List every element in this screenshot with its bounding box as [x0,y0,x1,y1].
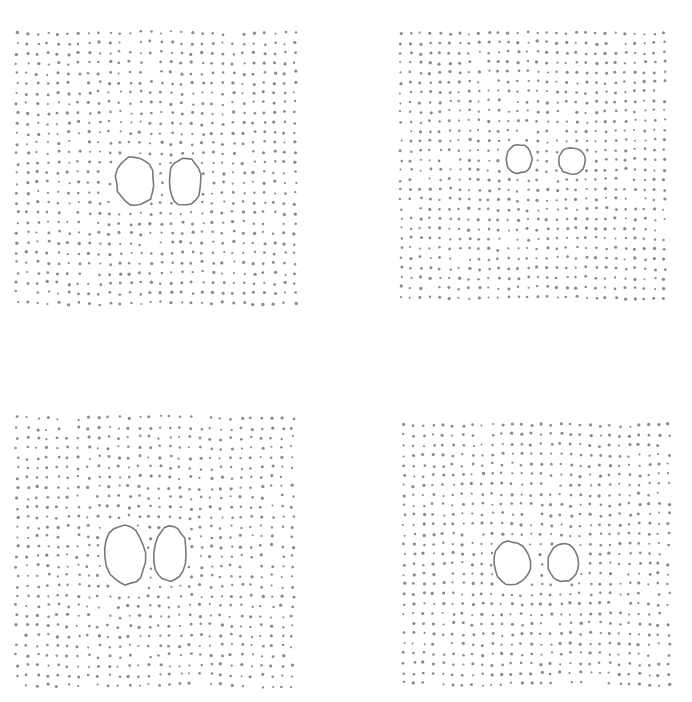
lattice-dot [557,296,559,298]
lattice-dot [570,584,573,587]
lattice-dot [210,544,213,547]
lattice-dot [97,222,99,224]
lattice-dot [181,152,184,155]
lattice-dot [490,664,493,667]
lattice-dot [477,178,480,181]
lattice-dot [546,246,549,249]
lattice-dot [180,101,183,104]
lattice-dot [458,228,460,230]
lattice-dot [149,615,152,618]
lattice-dot [457,297,459,299]
lattice-dot [57,623,60,626]
lattice-dot [438,237,441,240]
lattice-dot [558,442,561,445]
lattice-dot [619,524,622,527]
lattice-dot [492,511,494,513]
lattice-dot [557,256,559,258]
lattice-dot [478,70,481,73]
lattice-dot [566,71,569,74]
lattice-dot [130,242,132,244]
lattice-dot [66,221,68,223]
lattice-dot [545,171,548,174]
lattice-dot [293,282,295,284]
lattice-dot [97,665,100,668]
lattice-dot [210,302,213,305]
lattice-dot [149,446,152,449]
lattice-dot [45,42,48,45]
lattice-dot [99,565,101,567]
lattice-dot [86,516,88,518]
lattice-dot [45,251,48,254]
lattice-dot [418,102,421,105]
lattice-dot [412,454,415,457]
lattice-dot [66,553,68,555]
lattice-dot [16,665,19,668]
lattice-dot [295,31,297,33]
lattice-dot [487,178,490,181]
lattice-dot [419,247,421,249]
lattice-dot [624,62,626,64]
lattice-dot [283,556,286,559]
lattice-dot [36,685,39,688]
lattice-dot [638,653,640,655]
lattice-dot [229,436,232,439]
lattice-dot [629,581,632,584]
lattice-dot [618,465,620,467]
lattice-dot [109,282,112,285]
lattice-dot [262,223,265,226]
lattice-dot [668,634,671,637]
lattice-dot [55,466,58,469]
lattice-dot [249,526,251,528]
lattice-dot [520,433,523,436]
lattice-dot [251,428,254,431]
lattice-dot [449,187,452,190]
lattice-dot [209,427,211,429]
lattice-dot [274,53,277,56]
lattice-dot [107,684,110,687]
lattice-dot [99,242,101,244]
lattice-dot [401,276,403,278]
lattice-dot [27,526,29,528]
lattice-dot [584,236,587,239]
lattice-dot [490,543,492,545]
lattice-dot [526,210,529,213]
lattice-dot [481,464,483,466]
lattice-dot [17,466,19,468]
lattice-dot [89,458,91,460]
lattice-dot [15,496,18,499]
lattice-dot [229,456,232,459]
lattice-dot [158,475,161,478]
lattice-dot [574,189,577,192]
lattice-dot [614,276,616,278]
lattice-dot [574,217,577,220]
lattice-dot [77,221,80,224]
lattice-dot [627,573,629,575]
lattice-dot [25,673,28,676]
lattice-dot [293,91,295,93]
lattice-dot [56,674,59,677]
lattice-dot [653,149,656,152]
lattice-dot [647,423,650,426]
lattice-dot [433,603,435,605]
lattice-dot [624,91,626,93]
lattice-dot [579,633,582,636]
lattice-dot [449,197,452,200]
lattice-dot [506,129,509,132]
lattice-dot [502,443,504,445]
lattice-dot [652,52,655,55]
lattice-dot [561,603,564,606]
lattice-dot [628,613,630,615]
lattice-dot [614,288,617,291]
lattice-dot [231,210,234,213]
lattice-dot [239,457,241,459]
lattice-dot [569,525,572,528]
lattice-dot [200,496,203,499]
lattice-dot [649,674,651,676]
lattice-dot [149,52,152,55]
lattice-dot [449,238,451,240]
lattice-dot [652,297,655,300]
lattice-dot [171,252,174,255]
lattice-dot [537,218,540,221]
lattice-dot [200,555,202,557]
lattice-dot [282,132,285,135]
